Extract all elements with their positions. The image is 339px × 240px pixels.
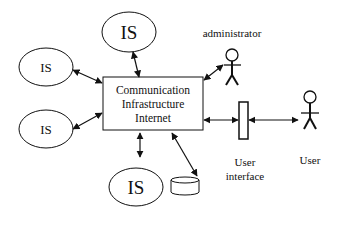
user-interface-label-line2: interface — [220, 169, 270, 183]
edge-is-left-upper — [73, 70, 102, 83]
center-line-3: Internet — [103, 111, 203, 125]
is-left-upper-label: IS — [26, 61, 66, 74]
edge-administrator — [204, 65, 223, 80]
center-box-label: Communication Infrastructure Internet — [103, 83, 203, 125]
is-top-label: IS — [109, 23, 149, 42]
is-bottom-label: IS — [116, 178, 156, 197]
administrator-label: administrator — [197, 28, 267, 39]
user-interface-label: User interface — [220, 155, 270, 183]
edge-is-top — [133, 52, 139, 77]
center-line-1: Communication — [103, 83, 203, 97]
database-icon — [171, 177, 199, 195]
center-line-2: Infrastructure — [103, 97, 203, 111]
user-actor-icon — [301, 91, 319, 129]
user-interface-icon — [239, 102, 248, 139]
edge-database — [172, 133, 197, 176]
user-label: User — [290, 155, 330, 166]
administrator-actor-icon — [224, 49, 241, 85]
user-interface-label-line1: User — [220, 155, 270, 169]
edge-is-left-lower — [73, 113, 102, 129]
is-left-lower-label: IS — [26, 123, 66, 136]
